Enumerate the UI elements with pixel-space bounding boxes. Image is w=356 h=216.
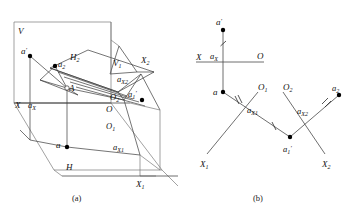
- point-a-prime-b: [221, 28, 225, 32]
- label-a2-a: a2: [58, 59, 65, 70]
- label-ax2-b: aX2: [297, 106, 308, 117]
- axis-x1-a: [54, 170, 178, 176]
- label-a1-prime-b: a1′: [283, 144, 292, 156]
- label-plane-h-a: H: [65, 162, 73, 172]
- point-a1-prime-b: [288, 135, 292, 139]
- panel-a-group: V a′ a2 H2 V1 X2 aX2 A O2 a1′ X aX: [14, 22, 178, 190]
- point-a2-a: [53, 64, 57, 68]
- tick-double-a2-1-b: [322, 98, 328, 104]
- label-a1-prime-a: a1′: [128, 89, 137, 101]
- caption-panel-b: (b): [253, 193, 263, 203]
- axis-x1-o1-b: [207, 92, 258, 154]
- label-a-prime-a: a′: [21, 46, 28, 57]
- point-a-b: [221, 90, 225, 94]
- point-a-prime-a: [28, 54, 32, 58]
- label-axis-x2-b: X2: [321, 159, 331, 170]
- label-axis-x1-b: X1: [199, 159, 209, 170]
- label-point-a-b: a: [213, 87, 218, 97]
- projection-figure-svg: V a′ a2 H2 V1 X2 aX2 A O2 a1′ X aX: [0, 0, 356, 216]
- label-axis-x2-a: X2: [140, 55, 150, 66]
- caption-panel-a: (a): [72, 193, 82, 203]
- label-plane-v1-a: V1: [113, 58, 122, 69]
- label-o2-a: O2: [110, 92, 119, 103]
- tick-single-a1prime-b: [272, 122, 276, 130]
- label-axis-x-b: X: [195, 52, 202, 62]
- label-a-prime-b: a′: [216, 17, 223, 28]
- point-a-a: [65, 145, 69, 149]
- plane-v-outline: [14, 22, 111, 103]
- label-origin-o-a: O: [106, 104, 113, 114]
- panel-b-group: a′ X aX O a aX1 O1 O2 aX2 a2 a1′ X1: [195, 17, 341, 171]
- label-o2-b: O2: [283, 82, 293, 93]
- label-ax1-a: aX1: [113, 142, 124, 153]
- label-plane-h2-a: H2: [69, 52, 80, 63]
- label-ax2-a: aX2: [117, 74, 128, 85]
- tick-double-a-2-b: [238, 95, 242, 103]
- point-a1-prime-a: [140, 98, 144, 102]
- label-ax-a: aX: [28, 100, 36, 111]
- tick-double-a2-2-b: [325, 101, 331, 107]
- label-origin-o-b: O: [257, 51, 264, 61]
- label-o1-a: O1: [106, 121, 115, 132]
- label-ax1-b: aX1: [247, 105, 258, 116]
- figure-container: V a′ a2 H2 V1 X2 aX2 A O2 a1′ X aX: [0, 0, 356, 216]
- label-plane-v-a: V: [18, 26, 25, 36]
- label-point-a-a: a: [56, 140, 61, 150]
- line-a1prime-a2-b: [290, 95, 339, 137]
- label-axis-x-a: X: [14, 100, 21, 110]
- label-o1-b: O1: [258, 82, 268, 93]
- label-ax-b: aX: [210, 51, 218, 62]
- label-point-A-a: A: [68, 83, 75, 93]
- label-a2-b: a2: [332, 83, 339, 94]
- label-axis-x1-a: X1: [135, 179, 145, 190]
